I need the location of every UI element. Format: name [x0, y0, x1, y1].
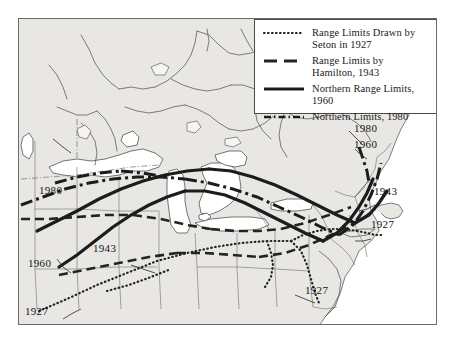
year-1960-west: 1960 [28, 257, 51, 269]
legend-label-northern-limits-1980: Northern Limits, 1980 [312, 111, 408, 123]
year-1980-west: 1980 [39, 184, 62, 196]
year-1943-center: 1943 [93, 242, 116, 254]
map-frame: Range Limits Drawn by Seton in 1927 Rang… [18, 18, 437, 325]
legend-label-line1: Northern Limits, 1980 [312, 111, 408, 122]
legend-label-hamilton-1943: Range Limits by Hamilton, 1943 [312, 55, 384, 78]
legend-label-line2: Seton in 1927 [312, 39, 372, 50]
legend-label-northern-range-1960: Northern Range Limits, 1960 [312, 83, 431, 106]
legend-key-dashdot-icon [263, 111, 305, 124]
hudson-bay [131, 19, 171, 71]
legend-key-solid-icon [263, 83, 305, 96]
year-1927-southwest: 1927 [25, 305, 48, 317]
legend-key-dashed-icon [263, 55, 305, 68]
legend-item-northern-range-1960: Northern Range Limits, 1960 [255, 83, 437, 106]
legend-key-dotted-icon [263, 27, 305, 40]
legend-label-line2: Hamilton, 1943 [312, 67, 379, 78]
legend-label-seton-1927: Range Limits Drawn by Seton in 1927 [312, 27, 415, 50]
year-1980-east: 1980 [354, 122, 377, 134]
legend-label-line1: Northern Range Limits, 1960 [312, 83, 414, 106]
year-1927-south: 1927 [305, 284, 328, 296]
legend-item-northern-limits-1980: Northern Limits, 1980 [255, 111, 437, 124]
legend-item-seton-1927: Range Limits Drawn by Seton in 1927 [255, 27, 437, 50]
year-1927-east: 1927 [371, 218, 394, 230]
legend-item-hamilton-1943: Range Limits by Hamilton, 1943 [255, 55, 437, 78]
legend-label-line1: Range Limits by [312, 55, 384, 66]
map-legend: Range Limits Drawn by Seton in 1927 Rang… [254, 19, 437, 114]
year-1943-east: 1943 [374, 185, 397, 197]
legend-label-line1: Range Limits Drawn by [312, 27, 415, 38]
year-1960-east: 1960 [354, 138, 377, 150]
map-figure: Range Limits Drawn by Seton in 1927 Rang… [0, 0, 457, 342]
